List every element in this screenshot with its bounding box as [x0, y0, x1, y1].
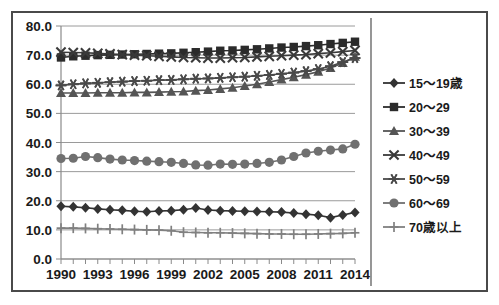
- circle-marker: [301, 148, 310, 157]
- diamond-marker: [326, 213, 335, 223]
- circle-marker: [314, 147, 323, 156]
- x-axis-label: 1993: [83, 267, 114, 282]
- y-axis-label: 0.0: [33, 252, 52, 267]
- circle-marker: [228, 160, 237, 169]
- diamond-marker: [69, 202, 78, 212]
- circle-marker: [326, 145, 335, 154]
- x-axis-label: 2005: [230, 267, 261, 282]
- diamond-marker: [142, 207, 151, 217]
- circle-marker: [338, 144, 347, 153]
- legend-label: 15～19歳: [409, 76, 463, 91]
- circle-marker: [216, 159, 225, 168]
- square-marker: [314, 41, 322, 49]
- diamond-marker: [191, 203, 200, 213]
- data-series-group: [56, 38, 361, 240]
- legend-label: 60～69: [409, 197, 450, 211]
- y-axis-label: 80.0: [26, 19, 52, 34]
- square-marker: [326, 40, 334, 48]
- legend-label: 70歳以上: [409, 220, 462, 235]
- y-axis-label: 10.0: [26, 223, 52, 238]
- chart-figure: 0.010.020.030.040.050.060.070.080.0 1990…: [0, 0, 499, 305]
- circle-marker: [105, 155, 114, 164]
- legend-label: 30～39: [409, 125, 450, 139]
- circle-marker: [167, 158, 176, 167]
- square-marker: [241, 46, 249, 54]
- circle-marker: [389, 198, 398, 207]
- circle-marker: [191, 160, 200, 169]
- y-axis-label: 60.0: [26, 77, 52, 92]
- x-axis-label: 2002: [193, 267, 223, 282]
- diamond-marker: [203, 205, 212, 215]
- square-marker: [390, 103, 398, 111]
- diamond-marker: [56, 201, 65, 211]
- circle-marker: [56, 154, 65, 163]
- x-axis-label: 1999: [156, 267, 186, 282]
- diamond-marker: [118, 205, 127, 215]
- diamond-marker: [81, 203, 90, 213]
- diamond-marker: [93, 204, 102, 214]
- diamond-marker: [350, 207, 359, 217]
- diamond-marker: [167, 206, 176, 216]
- chart-legend: 15～19歳20～2930～3940～4950～5960～6970歳以上: [383, 76, 463, 235]
- square-marker: [339, 39, 347, 47]
- x-axis-ticks: [61, 259, 355, 264]
- legend-item-1[interactable]: 15～19歳: [383, 76, 463, 91]
- x-axis-labels: 199019931996199920022005200820112014: [46, 267, 371, 282]
- diamond-marker: [289, 208, 298, 218]
- diamond-marker: [216, 206, 225, 216]
- y-axis-label: 70.0: [26, 48, 52, 63]
- circle-marker: [93, 153, 102, 162]
- series-7: [57, 223, 360, 239]
- legend-item-7[interactable]: 70歳以上: [383, 220, 462, 235]
- diamond-marker: [314, 210, 323, 220]
- x-axis-label: 1996: [119, 267, 150, 282]
- legend-item-3[interactable]: 30～39: [383, 125, 450, 139]
- circle-marker: [118, 155, 127, 164]
- square-marker: [302, 42, 310, 50]
- legend-item-4[interactable]: 40～49: [383, 149, 450, 163]
- diamond-marker: [252, 207, 261, 217]
- legend-label: 20～29: [409, 101, 450, 115]
- y-axis-label: 20.0: [26, 194, 52, 209]
- circle-marker: [179, 159, 188, 168]
- circle-marker: [154, 157, 163, 166]
- legend-label: 50～59: [409, 173, 450, 187]
- legend-item-2[interactable]: 20～29: [383, 101, 450, 115]
- legend-label: 40～49: [409, 149, 450, 163]
- diamond-marker: [265, 207, 274, 217]
- y-axis-label: 40.0: [26, 136, 52, 151]
- x-axis-label: 2008: [266, 267, 297, 282]
- circle-marker: [142, 157, 151, 166]
- legend-item-5[interactable]: 50～59: [383, 173, 450, 187]
- square-marker: [253, 45, 261, 53]
- circle-marker: [289, 152, 298, 161]
- circle-marker: [203, 161, 212, 170]
- square-marker: [265, 44, 273, 52]
- circle-marker: [240, 159, 249, 168]
- diamond-marker: [130, 206, 139, 216]
- square-marker: [277, 43, 285, 51]
- square-marker: [351, 38, 359, 46]
- circle-marker: [265, 158, 274, 167]
- diamond-marker: [277, 207, 286, 217]
- y-axis-label: 50.0: [26, 106, 52, 121]
- series-6: [56, 140, 359, 170]
- x-axis-label: 2011: [304, 267, 334, 282]
- circle-marker: [277, 155, 286, 164]
- x-axis-label: 2014: [340, 267, 371, 282]
- diamond-marker: [105, 205, 114, 215]
- line-chart: 0.010.020.030.040.050.060.070.080.0 1990…: [0, 0, 499, 305]
- y-axis-labels: 0.010.020.030.040.050.060.070.080.0: [26, 19, 52, 267]
- circle-marker: [130, 156, 139, 165]
- diamond-marker: [240, 206, 249, 216]
- diamond-marker: [179, 205, 188, 215]
- circle-marker: [69, 154, 78, 163]
- diamond-marker: [228, 206, 237, 216]
- circle-marker: [81, 152, 90, 161]
- x-axis-label: 1990: [46, 267, 76, 282]
- legend-item-6[interactable]: 60～69: [383, 197, 450, 211]
- circle-marker: [252, 159, 261, 168]
- grid-lines: [61, 26, 355, 259]
- diamond-marker: [389, 78, 398, 88]
- diamond-marker: [154, 206, 163, 216]
